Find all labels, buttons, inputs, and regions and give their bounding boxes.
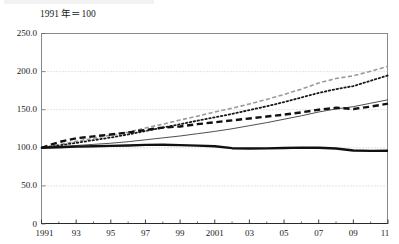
chart-canvas	[0, 0, 399, 244]
data-series-group	[42, 66, 389, 151]
series-black-thick-dashed	[42, 104, 389, 148]
axis-ticks	[42, 34, 389, 225]
chart-figure: 1991 年＝100 050.0100.0150.0200.0250.0 199…	[0, 0, 399, 244]
